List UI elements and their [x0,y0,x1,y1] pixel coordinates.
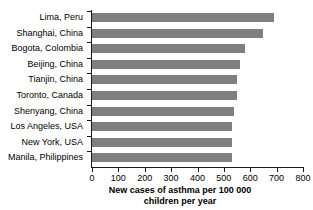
x-axis-tick [250,168,251,172]
x-axis-title-line2: children per year [60,196,300,207]
x-axis-tick [224,168,225,172]
category-label: Beijing, China [0,60,83,69]
x-axis-tick [171,168,172,172]
asthma-bar-chart: Lima, PeruShanghai, ChinaBogota, Colombi… [0,0,313,210]
y-axis-tick [87,89,92,90]
bar [92,44,245,53]
bar [92,138,232,147]
category-label: Lima, Peru [0,13,83,22]
bar [92,122,232,131]
y-axis-tick [87,73,92,74]
bar [92,29,263,38]
category-label: Toronto, Canada [0,91,83,100]
y-axis-tick [87,105,92,106]
x-axis-title: New cases of asthma per 100 000 children… [60,185,300,207]
y-axis-tick [87,58,92,59]
x-axis-tick [145,168,146,172]
bar [92,60,240,69]
bar [92,107,234,116]
x-axis-tick-label: 800 [283,173,313,183]
category-label: Shenyang, China [0,107,83,116]
y-axis-tick [87,136,92,137]
x-axis-tick [118,168,119,172]
bar [92,153,232,162]
bar [92,75,237,84]
x-axis-title-line1: New cases of asthma per 100 000 [109,185,252,195]
plot-area [92,11,303,167]
category-label: Los Angeles, USA [0,122,83,131]
category-axis: Lima, PeruShanghai, ChinaBogota, Colombi… [0,11,88,167]
bar [92,91,237,100]
y-axis-tick [87,120,92,121]
x-axis-tick [198,168,199,172]
y-axis-tick [87,11,92,12]
x-axis-tick [303,168,304,172]
x-axis-tick [277,168,278,172]
bar [92,13,274,22]
category-label: Bogota, Colombia [0,44,83,53]
y-axis-tick [87,42,92,43]
category-label: New York, USA [0,138,83,147]
category-label: Tianjin, China [0,75,83,84]
x-axis-tick [92,168,93,172]
y-axis-tick [87,27,92,28]
category-label: Shanghai, China [0,29,83,38]
y-axis-tick [87,151,92,152]
category-label: Manila, Philippines [0,153,83,162]
